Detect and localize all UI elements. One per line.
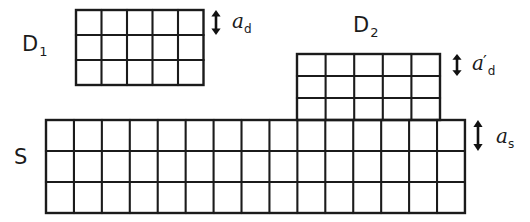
lattice-d1-outline xyxy=(76,10,204,85)
lattice-grid-canvas xyxy=(0,0,530,222)
region-label-d2-subscript: 2 xyxy=(370,25,378,40)
region-label-d1: D1 xyxy=(22,34,46,55)
dimension-label-a-d-prime: a′d xyxy=(472,53,495,73)
dimension-arrow-a_d xyxy=(211,10,220,35)
dimension-subscript-a-s: s xyxy=(508,137,514,151)
dimension-label-a-d: ad xyxy=(232,11,252,31)
dimension-arrow-a_d_prime-head-up xyxy=(452,54,461,60)
region-label-d1-text: D xyxy=(22,32,38,56)
dimension-arrow-a_d_prime xyxy=(452,54,461,76)
lattice-d2 xyxy=(297,54,440,120)
dimension-arrow-a_s xyxy=(473,120,482,151)
region-label-s-text: S xyxy=(14,145,27,169)
dimension-arrow-a_d-head-up xyxy=(211,10,220,17)
dimension-arrow-a_s-head-up xyxy=(473,120,482,127)
dimension-symbol-a-d: a xyxy=(232,9,244,33)
dimension-prime-a-d-prime: ′ xyxy=(483,51,487,71)
lattice-d1 xyxy=(76,10,204,85)
dimension-label-a-s: as xyxy=(496,126,514,146)
dimension-arrow-a_d_prime-head-down xyxy=(452,70,461,76)
region-label-d2: D2 xyxy=(353,15,377,36)
region-label-s: S xyxy=(14,147,27,168)
region-label-d2-text: D xyxy=(353,13,369,37)
dimension-arrow-a_s-head-down xyxy=(473,144,482,151)
dimension-subscript-a-d: d xyxy=(244,22,252,36)
lattice-s xyxy=(46,120,465,213)
dimension-subscript-a-d-prime: d xyxy=(488,64,496,78)
lattice-s-outline xyxy=(46,120,465,213)
region-label-d1-subscript: 1 xyxy=(39,44,47,59)
lattice-epitaxy-figure: D1 D2 S ad a′d as xyxy=(0,0,530,222)
dimension-symbol-a-s: a xyxy=(496,124,508,148)
lattice-d2-outline xyxy=(297,54,440,120)
dimension-arrow-a_d-head-down xyxy=(211,29,220,36)
